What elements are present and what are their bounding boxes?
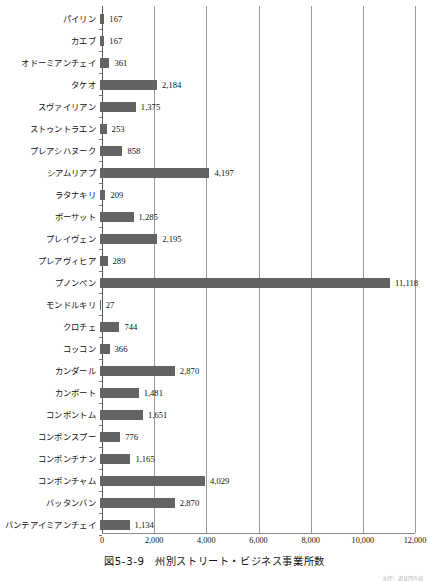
bar-category-label: プレアヴィヒア [0, 257, 100, 265]
bar-track: 1,285 [100, 206, 429, 228]
bar-value-label: 2,195 [162, 234, 181, 244]
figure-root: パイリン167カエブ167オドーミアンチェイ361タケオ2,184スヴァイリアン… [0, 0, 429, 581]
x-tick-label: 12,000 [404, 536, 427, 545]
bar-track: 209 [100, 184, 429, 206]
bar-category-label: ポーサット [0, 213, 100, 221]
x-tick-label: 8,000 [301, 536, 319, 545]
bar [100, 432, 120, 442]
bar-value-label: 2,870 [180, 366, 199, 376]
bar-track: 4,197 [100, 162, 429, 184]
bar-row: オドーミアンチェイ361 [0, 52, 429, 74]
bar-track: 4,029 [100, 470, 429, 492]
bar-category-label: コッコン [0, 345, 100, 353]
bar-category-label: バッタンバン [0, 499, 100, 507]
bar-category-label: ストゥントラエン [0, 125, 100, 133]
bar-row: コンポンチャム4,029 [0, 470, 429, 492]
bar-track: 1,481 [100, 382, 429, 404]
bar [100, 366, 175, 376]
bar-value-label: 361 [114, 58, 127, 68]
bar-row: シアムリアプ4,197 [0, 162, 429, 184]
bar-track: 289 [100, 250, 429, 272]
bar [100, 146, 122, 156]
bar-track: 11,118 [100, 272, 429, 294]
bar [100, 124, 107, 134]
bar-row: コッコン366 [0, 338, 429, 360]
bar-category-label: ラタナキリ [0, 191, 100, 199]
bar-track: 167 [100, 30, 429, 52]
figure-caption: 図5-3-9 州別ストリート・ビジネス事業所数 [0, 553, 429, 568]
bar-category-label: プノンペン [0, 279, 100, 287]
bar [100, 454, 130, 464]
bar-value-label: 167 [109, 36, 122, 46]
bar-row: プレアヴィヒア289 [0, 250, 429, 272]
bar-track: 27 [100, 294, 429, 316]
bar [100, 410, 143, 420]
bar-category-label: コンポンチナン [0, 455, 100, 463]
bar [100, 520, 130, 530]
bar [100, 212, 134, 222]
bar-row: パイリン167 [0, 8, 429, 30]
bar-track: 1,375 [100, 96, 429, 118]
bar-category-label: モンドルキリ [0, 301, 100, 309]
bar-value-label: 11,118 [395, 278, 418, 288]
bar-category-label: カエブ [0, 37, 100, 45]
bar [100, 256, 108, 266]
bar-track: 361 [100, 52, 429, 74]
bar-value-label: 744 [124, 322, 137, 332]
bar-value-label: 1,375 [141, 102, 160, 112]
bar-category-label: スヴァイリアン [0, 103, 100, 111]
bar-row: コンポンチナン1,165 [0, 448, 429, 470]
bar-row: ストゥントラエン253 [0, 118, 429, 140]
bar-row: コンポントム1,651 [0, 404, 429, 426]
bar-value-label: 253 [112, 124, 125, 134]
bar-value-label: 776 [125, 432, 138, 442]
x-tick-label: 10,000 [352, 536, 375, 545]
bar-value-label: 27 [106, 300, 115, 310]
bar [100, 322, 119, 332]
bar-value-label: 2,870 [180, 498, 199, 508]
bar [100, 58, 109, 68]
bar [100, 476, 205, 486]
bar-track: 2,184 [100, 74, 429, 96]
bar [100, 36, 104, 46]
bar-value-label: 366 [115, 344, 128, 354]
bar-category-label: コンポンチャム [0, 477, 100, 485]
bar-row: カエブ167 [0, 30, 429, 52]
bar-value-label: 858 [127, 146, 140, 156]
bar-track: 366 [100, 338, 429, 360]
bar [100, 80, 157, 90]
bar-track: 2,870 [100, 360, 429, 382]
x-axis-line [102, 533, 415, 534]
bar-category-label: プレアシハヌーク [0, 147, 100, 155]
bar-category-label: カンポート [0, 389, 100, 397]
bar-row: タケオ2,184 [0, 74, 429, 96]
bar-value-label: 1,481 [144, 388, 163, 398]
x-tick-label: 6,000 [249, 536, 267, 545]
bar-value-label: 4,197 [214, 168, 233, 178]
bar-track: 1,651 [100, 404, 429, 426]
bar-track: 776 [100, 426, 429, 448]
bar-row: コンポンスプー776 [0, 426, 429, 448]
bar-value-label: 1,165 [135, 454, 154, 464]
bar [100, 234, 157, 244]
x-tick-label: 4,000 [197, 536, 215, 545]
bar-value-label: 1,651 [148, 410, 167, 420]
bar-row: スヴァイリアン1,375 [0, 96, 429, 118]
bar-value-label: 4,029 [210, 476, 229, 486]
bar [100, 498, 175, 508]
bar-category-label: シアムリアプ [0, 169, 100, 177]
bar-track: 253 [100, 118, 429, 140]
bar-row: プレイヴェン2,195 [0, 228, 429, 250]
bar-value-label: 209 [110, 190, 123, 200]
bar-row: プノンペン11,118 [0, 272, 429, 294]
bar [100, 278, 390, 288]
bar-category-label: オドーミアンチェイ [0, 59, 100, 67]
bar-value-label: 1,134 [135, 520, 154, 530]
bar-value-label: 289 [113, 256, 126, 266]
bar-category-label: クロチェ [0, 323, 100, 331]
bar-row: バッタンバン2,870 [0, 492, 429, 514]
bar-category-label: タケオ [0, 81, 100, 89]
source-note: 出所：調査団作成 [383, 574, 423, 581]
x-tick-label: 2,000 [145, 536, 163, 545]
bar-track: 2,870 [100, 492, 429, 514]
